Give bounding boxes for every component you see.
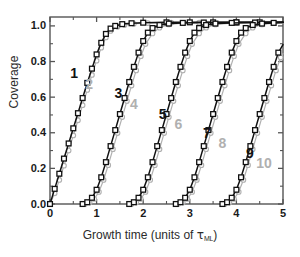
data-point <box>157 23 162 28</box>
data-point <box>250 23 255 28</box>
data-point <box>113 128 118 133</box>
data-point <box>211 112 216 117</box>
data-point <box>104 32 109 37</box>
data-point <box>166 21 171 26</box>
data-point <box>197 26 202 31</box>
data-point <box>141 39 146 44</box>
data-point <box>271 20 276 25</box>
curve-label-9: 9 <box>246 146 254 160</box>
data-point <box>271 64 276 69</box>
curve-label-7: 7 <box>203 126 211 140</box>
data-point <box>197 31 202 36</box>
data-point <box>48 202 53 207</box>
data-point <box>215 96 220 101</box>
data-point <box>150 160 155 165</box>
data-point <box>180 20 185 25</box>
x-axis-title: Growth time (units of τML) <box>0 228 300 242</box>
data-point <box>187 39 192 44</box>
data-point <box>141 20 146 25</box>
data-point <box>94 52 99 57</box>
data-point <box>57 171 62 176</box>
data-point <box>99 40 104 45</box>
x-axis-title-base: Growth time (units of <box>83 228 197 242</box>
data-point <box>278 55 283 60</box>
x-tick-label: 5 <box>273 208 293 219</box>
curve-label-6: 6 <box>175 117 183 131</box>
data-point <box>169 96 174 101</box>
tau-subscript: ML <box>204 235 213 242</box>
data-point <box>94 187 99 192</box>
curve-label-2: 2 <box>85 77 93 91</box>
data-point <box>197 160 202 165</box>
data-point <box>118 112 123 117</box>
data-point <box>239 175 244 180</box>
data-point <box>76 111 81 116</box>
data-point <box>173 80 178 85</box>
data-point <box>155 144 160 149</box>
curve-label-3: 3 <box>115 86 123 100</box>
curve-label-1: 1 <box>70 66 78 80</box>
data-point <box>122 96 127 101</box>
data-point <box>104 160 109 165</box>
data-point <box>120 22 125 27</box>
data-point <box>108 144 113 149</box>
data-point <box>145 175 150 180</box>
data-point <box>243 31 248 36</box>
series-4 <box>83 20 283 206</box>
data-point <box>90 66 95 71</box>
chart-figure: Coverage 0.00.20.40.60.81.0 012345 12345… <box>0 0 300 257</box>
data-point <box>201 144 206 149</box>
data-point <box>220 80 225 85</box>
data-point <box>267 80 272 85</box>
data-point <box>141 187 146 192</box>
data-point <box>234 187 239 192</box>
series-3 <box>80 20 283 206</box>
data-point <box>150 26 155 31</box>
x-tick-label: 0 <box>40 208 60 219</box>
x-tick-label: 2 <box>133 208 153 219</box>
x-tick-label: 3 <box>180 208 200 219</box>
x-axis-title-tail: ) <box>213 228 217 242</box>
data-point <box>183 50 188 55</box>
data-point <box>229 195 234 200</box>
tau-symbol: τ <box>197 228 204 242</box>
data-point <box>260 21 265 26</box>
data-point <box>136 195 141 200</box>
data-point <box>90 195 95 200</box>
data-point <box>136 50 141 55</box>
data-point <box>80 96 85 101</box>
data-point <box>276 50 281 55</box>
curve-label-4: 4 <box>130 97 138 111</box>
data-point <box>257 112 262 117</box>
data-point <box>187 187 192 192</box>
data-point <box>262 96 267 101</box>
data-point <box>253 128 258 133</box>
data-point <box>71 126 76 131</box>
data-point <box>127 80 132 85</box>
data-point <box>113 24 118 29</box>
data-point <box>129 21 134 26</box>
data-point <box>178 64 183 69</box>
data-point <box>150 31 155 36</box>
x-tick-label: 4 <box>226 208 246 219</box>
data-point <box>131 64 136 69</box>
data-point <box>225 64 230 69</box>
curve-label-10: 10 <box>256 156 272 170</box>
curve-label-8: 8 <box>218 136 226 150</box>
data-point <box>99 175 104 180</box>
data-point <box>159 128 164 133</box>
data-point <box>62 156 67 161</box>
data-point <box>229 20 234 25</box>
data-point <box>204 23 209 28</box>
curve-label-5: 5 <box>159 107 167 121</box>
x-tick-label: 1 <box>87 208 107 219</box>
data-point <box>229 50 234 55</box>
data-point <box>234 39 239 44</box>
data-point <box>183 195 188 200</box>
data-point <box>192 175 197 180</box>
data-point <box>52 186 57 191</box>
data-point <box>213 21 218 26</box>
data-point <box>66 141 71 146</box>
data-point <box>243 26 248 31</box>
